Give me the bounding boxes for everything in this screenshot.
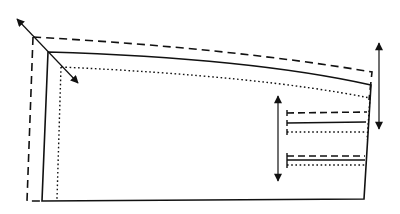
pattern-diagram: Pattern adjustment diagram: three nested… xyxy=(0,0,400,214)
solid-outline xyxy=(42,52,371,201)
diagram-svg xyxy=(0,0,400,214)
dotted-outline xyxy=(57,67,370,199)
upper-dashed-line xyxy=(287,112,367,113)
upper-solid-line xyxy=(287,122,366,123)
dashed-outline xyxy=(27,37,372,201)
lower-reference-lines xyxy=(287,153,365,168)
upper-reference-lines xyxy=(287,110,367,135)
